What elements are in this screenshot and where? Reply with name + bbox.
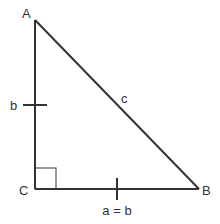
vertex-label-a: A [22, 6, 31, 21]
side-ab-hypotenuse [35, 20, 199, 189]
side-label-c: c [121, 91, 128, 106]
vertex-label-b: B [202, 183, 211, 198]
right-angle-marker [35, 168, 56, 189]
side-label-a-equals-b: a = b [102, 203, 131, 218]
vertex-label-c: C [19, 183, 28, 198]
right-triangle-diagram: A B C b c a = b [0, 0, 220, 224]
side-label-b: b [10, 98, 17, 113]
